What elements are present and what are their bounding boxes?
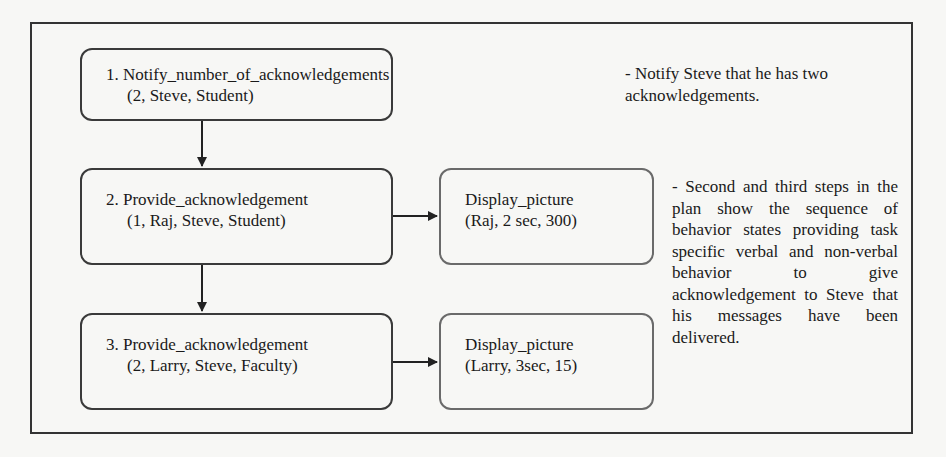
step-1-title: 1. Notify_number_of_acknowledgements [106, 64, 389, 85]
action-display-picture-larry: Display_picture (Larry, 3sec, 15) [439, 313, 654, 410]
step-3-title: 3. Provide_acknowledgement [106, 334, 308, 355]
step-1-box: 1. Notify_number_of_acknowledgements (2,… [80, 48, 393, 121]
note-steps-2-3: - Second and third steps in the plan sho… [672, 176, 898, 348]
step-3-box: 3. Provide_acknowledgement (2, Larry, St… [80, 313, 393, 410]
step-2-params: (1, Raj, Steve, Student) [106, 210, 308, 231]
step-3-params: (2, Larry, Steve, Faculty) [106, 355, 308, 376]
step-1-params: (2, Steve, Student) [106, 85, 389, 106]
action-2-params: (Larry, 3sec, 15) [465, 355, 577, 376]
action-2-title: Display_picture [465, 334, 577, 355]
step-2-box: 2. Provide_acknowledgement (1, Raj, Stev… [80, 168, 393, 265]
action-1-params: (Raj, 2 sec, 300) [465, 210, 577, 231]
action-1-title: Display_picture [465, 189, 577, 210]
action-display-picture-raj: Display_picture (Raj, 2 sec, 300) [439, 168, 654, 265]
step-2-title: 2. Provide_acknowledgement [106, 189, 308, 210]
note-step-1: - Notify Steve that he has two acknowled… [625, 63, 895, 106]
